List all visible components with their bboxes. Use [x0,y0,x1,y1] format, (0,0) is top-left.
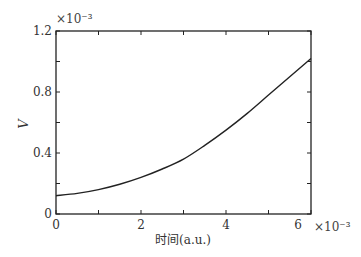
x-tick-label: 2 [137,218,145,232]
y-tick-label: 0 [44,207,52,221]
line-chart: 0246 00.40.81.2 ×10⁻³ ×10⁻³ V 时间(a.u.) [0,0,361,257]
y-axis-ticks: 00.40.81.2 [33,24,311,221]
x-axis-label: 时间(a.u.) [155,233,211,247]
y-tick-label: 0.4 [33,146,52,160]
x-tick-label: 4 [222,218,230,232]
x-tick-label: 0 [52,218,60,232]
x-tick-label: 6 [294,218,302,232]
axes-frame [56,31,311,214]
x-axis-ticks: 0246 [52,31,311,232]
data-line [56,58,311,195]
y-axis-label: V [16,118,31,129]
y-axis-multiplier: ×10⁻³ [56,12,93,26]
y-tick-label: 1.2 [33,24,52,38]
y-tick-label: 0.8 [33,85,52,99]
x-axis-multiplier: ×10⁻³ [314,220,351,234]
